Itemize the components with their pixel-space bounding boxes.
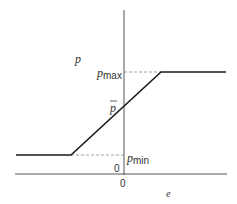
- y-axis-label: p: [74, 52, 81, 66]
- saturation-curve: [16, 72, 226, 155]
- origin-y-label: 0: [114, 163, 120, 174]
- x-axis-label: e: [166, 188, 171, 199]
- saturation-diagram: p e pmax pmin p 0 0: [0, 0, 237, 204]
- pbar-label: p: [109, 101, 116, 115]
- pmin-label: pmin: [126, 151, 149, 166]
- origin-x-label: 0: [120, 178, 126, 189]
- pmax-label: pmax: [96, 66, 122, 81]
